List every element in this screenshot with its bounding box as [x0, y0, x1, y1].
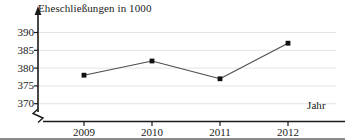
y-tick-label-385: 385 — [0, 44, 34, 56]
y-tick-label-380: 380 — [0, 62, 34, 74]
x-tick-label-2009: 2009 — [62, 126, 106, 138]
chart-canvas — [0, 0, 345, 140]
data-series-eheschliessungen — [82, 41, 291, 81]
data-point-2010 — [150, 59, 155, 64]
x-tick-label-2010: 2010 — [130, 126, 174, 138]
data-point-2009 — [82, 73, 87, 78]
x-tick-label-2011: 2011 — [198, 126, 242, 138]
plot-area: Eheschließungen in 1000 Jahr 390 385 380… — [0, 0, 345, 140]
y-tick-label-390: 390 — [0, 26, 34, 38]
y-tick-label-375: 375 — [0, 79, 34, 91]
x-axis-title: Jahr — [307, 99, 326, 111]
data-point-2012 — [286, 41, 291, 46]
gridlines — [38, 33, 336, 104]
data-point-2011 — [218, 76, 223, 81]
y-tick-label-370: 370 — [0, 97, 34, 109]
y-axis — [35, 6, 42, 112]
x-tick-label-2012: 2012 — [266, 126, 310, 138]
y-axis-title: Eheschließungen in 1000 — [38, 2, 152, 14]
line-chart: Eheschließungen in 1000 Jahr 390 385 380… — [0, 0, 345, 140]
